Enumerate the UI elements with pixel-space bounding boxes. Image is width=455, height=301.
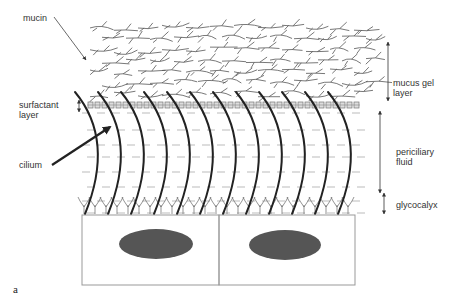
panel-label: a	[13, 283, 18, 295]
cilia	[75, 92, 351, 214]
label-mucin: mucin	[23, 13, 47, 23]
nucleus-2	[249, 230, 321, 260]
nucleus-1	[119, 229, 193, 259]
mucin-pointer-arrow	[54, 17, 86, 60]
label-cilium: cilium	[19, 160, 42, 170]
mucus-gel-layer	[89, 19, 392, 102]
diagram-canvas	[0, 0, 455, 301]
epithelial-cells	[82, 215, 355, 285]
airway-epithelium-diagram: mucin surfactant layer cilium mucus gel …	[0, 0, 455, 301]
label-mucus-gel-layer: mucus gel layer	[393, 78, 434, 98]
label-glycocalyx: glycocalyx	[396, 200, 438, 210]
periciliary-fluid	[82, 113, 365, 213]
glycocalyx	[78, 197, 354, 214]
label-periciliary-fluid: periciliary fluid	[396, 147, 434, 167]
label-surfactant-layer: surfactant layer	[19, 100, 59, 120]
cilium-pointer-arrow	[52, 127, 110, 165]
